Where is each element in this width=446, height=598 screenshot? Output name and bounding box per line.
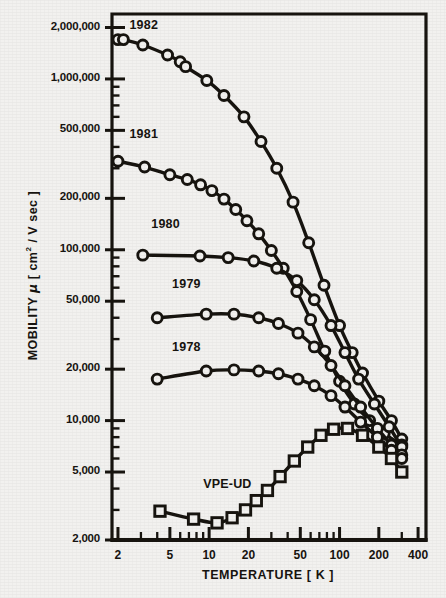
x-axis-title: TEMPERATURE [ K ] (110, 568, 426, 582)
y-tick-label: 100,000 (18, 242, 100, 254)
mobility-vs-temperature-figure: MOBILITY μ [ cm2 / V sec ] TEMPERATURE [… (0, 0, 446, 598)
x-tick-label: 400 (395, 548, 441, 562)
y-tick-label: 5,000 (18, 464, 100, 476)
series-label-1979: 1979 (172, 277, 201, 291)
y-tick-label: 10,000 (18, 413, 100, 425)
plot-frame (112, 14, 426, 540)
series-vpe-ud (155, 423, 407, 528)
y-axis-title: MOBILITY μ [ cm2 / V sec ] (24, 126, 39, 426)
y-tick-label: 1,000,000 (18, 71, 100, 83)
series-1978 (152, 365, 407, 464)
series-label-vpe-ud: VPE-UD (203, 477, 251, 491)
series-label-1981: 1981 (129, 127, 158, 141)
y-tick-label: 2,000,000 (18, 20, 100, 32)
series-label-1980: 1980 (151, 217, 180, 231)
series-label-1978: 1978 (172, 340, 201, 354)
x-tick-label: 2 (95, 548, 141, 562)
y-tick-label: 50,000 (18, 293, 100, 305)
y-tick-label: 2,000 (18, 532, 100, 544)
y-tick-label: 500,000 (18, 122, 100, 134)
series-label-1982: 1982 (129, 18, 158, 32)
y-tick-label: 200,000 (18, 190, 100, 202)
y-tick-label: 20,000 (18, 361, 100, 373)
series-group (113, 35, 407, 528)
x-tick-label: 20 (225, 548, 271, 562)
